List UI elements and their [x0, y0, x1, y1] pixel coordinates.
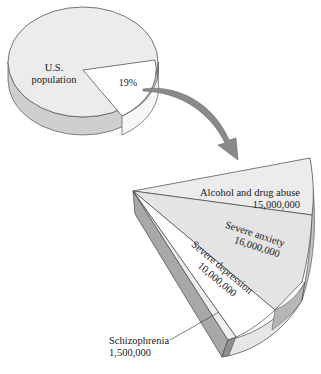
- alcohol-value: 15,000,000: [253, 199, 300, 210]
- schizophrenia-label: Schizophrenia: [109, 335, 169, 346]
- schizophrenia-value: 1,500,000: [109, 347, 151, 358]
- breakdown-wedge: Alcohol and drug abuse 15,000,000 Severe…: [109, 158, 315, 358]
- alcohol-label: Alcohol and drug abuse: [200, 187, 300, 198]
- pct-label: 19%: [119, 77, 137, 88]
- pie-chart-figure: U.S. population 19% Alcohol and drug abu…: [0, 0, 321, 374]
- us-population-label-line1: U.S.: [45, 62, 64, 73]
- us-population-pie: U.S. population 19%: [8, 7, 159, 135]
- us-population-label-line2: population: [32, 74, 78, 85]
